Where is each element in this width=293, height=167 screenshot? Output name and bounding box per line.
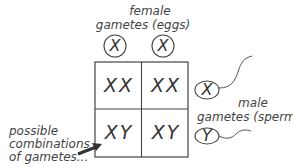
cell-r1c2: XX (143, 74, 189, 96)
sperm-y: Y (195, 126, 219, 146)
cell-r2c2: XY (143, 121, 189, 143)
sperm-tail-y (219, 130, 251, 138)
sperm-tail-x (219, 56, 252, 88)
annotation-line3: of gametes... (9, 151, 88, 164)
cell-r2c1: XY (96, 121, 142, 143)
female-label-line2: gametes (eggs) (88, 19, 198, 32)
male-label-line1: male (228, 97, 278, 110)
female-label-line1: female (120, 5, 180, 18)
cell-r1c1: XX (96, 74, 142, 96)
egg-x-2: X (151, 36, 175, 56)
egg-x-1: X (103, 36, 127, 56)
male-label-line2: gametes (sperm) (197, 111, 293, 124)
sperm-x: X (195, 80, 219, 100)
